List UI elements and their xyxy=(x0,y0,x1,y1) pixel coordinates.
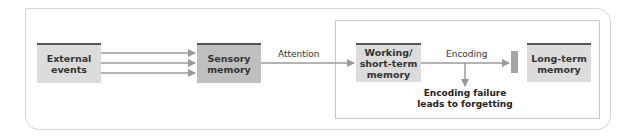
working-memory-label-1: Working/ xyxy=(360,47,418,58)
working-memory-label-2: short-term xyxy=(360,58,418,69)
external-events-label-1: External xyxy=(47,53,92,64)
encoding-barrier xyxy=(511,51,518,73)
working-memory-box: Working/ short-term memory xyxy=(356,43,421,82)
attention-label: Attention xyxy=(278,49,320,59)
encoding-failure-note: Encoding failure leads to forgetting xyxy=(415,88,515,110)
encoding-label: Encoding xyxy=(446,49,487,59)
working-memory-label-3: memory xyxy=(360,69,418,80)
sensory-memory-box: Sensory memory xyxy=(197,43,261,83)
failure-line-1: Encoding failure xyxy=(415,88,515,99)
external-events-label-2: events xyxy=(47,64,92,75)
external-events-box: External events xyxy=(37,43,101,83)
long-term-memory-label-1: Long-term xyxy=(531,53,587,64)
sensory-memory-label-1: Sensory xyxy=(207,53,251,64)
long-term-memory-label-2: memory xyxy=(531,64,587,75)
long-term-memory-box: Long-term memory xyxy=(527,43,591,82)
sensory-memory-label-2: memory xyxy=(207,64,251,75)
failure-line-2: leads to forgetting xyxy=(415,99,515,110)
